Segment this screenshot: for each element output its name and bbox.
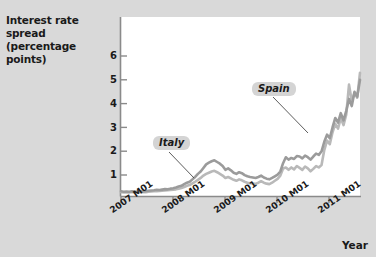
series-annotation-spain: Spain <box>252 82 296 96</box>
spain-leader-line <box>273 97 308 133</box>
chart-overlay <box>0 0 376 257</box>
series-line-spain <box>121 73 360 193</box>
y-tick-label-2: 2 <box>101 145 117 156</box>
data-series-group <box>121 73 360 193</box>
chart-figure: Interest rate spread (percentage points) <box>0 0 376 257</box>
x-axis-title: Year <box>342 239 368 251</box>
italy-leader-line <box>169 152 194 178</box>
y-tick-label-3: 3 <box>101 122 117 133</box>
annotation-leaders <box>169 97 308 178</box>
series-annotation-italy: Italy <box>153 136 190 150</box>
y-tick-label-1: 1 <box>101 169 117 180</box>
y-tick-label-5: 5 <box>101 74 117 85</box>
y-tick-label-4: 4 <box>101 98 117 109</box>
axis-lines <box>121 17 362 197</box>
y-axis-ticks <box>121 56 128 175</box>
y-tick-label-6: 6 <box>101 50 117 61</box>
